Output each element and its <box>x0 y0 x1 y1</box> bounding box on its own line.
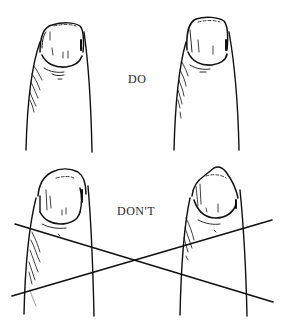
label-do: DO <box>128 72 146 87</box>
finger-dont-right <box>180 167 247 316</box>
finger-dont-left <box>24 169 94 316</box>
finger-do-right <box>174 17 239 150</box>
cross-line-ascending <box>12 220 272 296</box>
finger-do-left <box>26 23 92 152</box>
cross-line-descending <box>15 224 273 302</box>
nail-care-illustration: DO DON'T <box>0 0 287 332</box>
label-dont: DON'T <box>117 204 155 219</box>
cross-out-x <box>12 220 273 302</box>
drawing-layer <box>0 0 287 332</box>
